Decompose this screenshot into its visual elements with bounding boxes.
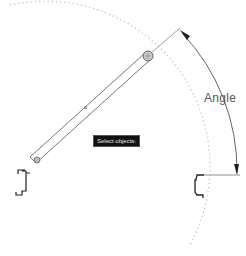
arrowhead-bottom-icon <box>234 164 239 175</box>
end-grip-icon[interactable] <box>143 51 153 61</box>
channel-profile-left <box>16 170 30 195</box>
angle-dimension-label: Angle <box>204 91 236 105</box>
drawing-canvas[interactable]: Angle Select objects: <box>0 0 246 256</box>
midpoint-marker-icon <box>84 106 87 109</box>
arrowhead-top-icon <box>180 30 190 40</box>
swing-path-arc <box>10 1 210 245</box>
pivot-grip-icon[interactable] <box>34 157 40 163</box>
extension-line <box>151 28 180 53</box>
channel-profile-right <box>195 175 204 198</box>
command-tooltip: Select objects: <box>93 135 140 147</box>
diagram-svg <box>0 0 246 256</box>
